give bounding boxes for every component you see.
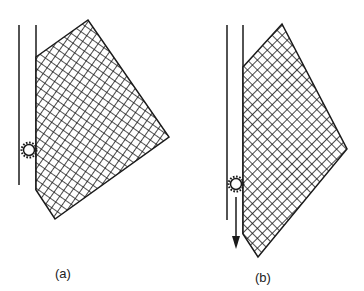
grid-panel-a — [36, 20, 169, 219]
gear-icon — [229, 177, 244, 192]
panel-a — [19, 20, 169, 219]
grid-panel-b — [243, 24, 347, 257]
arrow-down-icon — [232, 197, 240, 249]
gear-icon — [22, 143, 37, 158]
panel-a-label: (a) — [55, 266, 71, 281]
panel-b-label: (b) — [255, 270, 271, 285]
diagram-canvas — [0, 0, 364, 291]
panel-b — [227, 24, 347, 257]
